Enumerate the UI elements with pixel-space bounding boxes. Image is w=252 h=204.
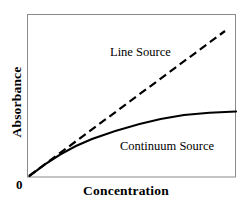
line-source-label: Line Source	[110, 46, 171, 59]
plot-canvas	[0, 0, 252, 204]
x-axis-title: Concentration	[0, 184, 252, 198]
absorbance-concentration-figure: Absorbance Concentration 0 Line Source C…	[0, 0, 252, 204]
y-axis-title: Absorbance	[10, 0, 28, 204]
continuum-source-label: Continuum Source	[120, 140, 214, 153]
origin-tick-label: 0	[16, 178, 23, 191]
